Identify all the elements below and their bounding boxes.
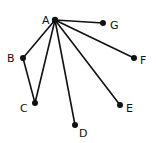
edge-B-C bbox=[23, 58, 35, 103]
node-label-G: G bbox=[110, 19, 119, 32]
edge-A-G bbox=[55, 20, 103, 23]
node-label-C: C bbox=[20, 102, 28, 115]
edge-A-E bbox=[55, 20, 120, 105]
node-B bbox=[20, 55, 26, 61]
node-label-B: B bbox=[7, 52, 15, 65]
edge-A-F bbox=[55, 20, 134, 58]
node-G bbox=[100, 20, 106, 26]
node-E bbox=[117, 102, 123, 108]
node-label-E: E bbox=[126, 102, 133, 115]
node-D bbox=[72, 122, 78, 128]
edge-A-D bbox=[55, 20, 75, 125]
node-C bbox=[32, 100, 38, 106]
edges bbox=[23, 20, 134, 125]
node-label-D: D bbox=[79, 127, 87, 140]
node-label-F: F bbox=[140, 54, 146, 67]
graph-diagram: AGBFCED bbox=[0, 0, 156, 143]
node-A bbox=[52, 17, 58, 23]
node-label-A: A bbox=[42, 14, 50, 27]
node-F bbox=[131, 55, 137, 61]
